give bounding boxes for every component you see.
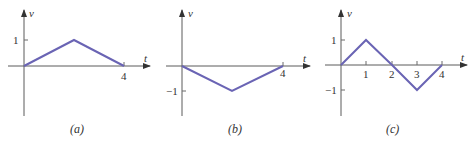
- t-axis-label: t: [461, 51, 465, 63]
- x-tick-label: 4: [280, 67, 286, 79]
- x-tick-label-2: 2: [389, 68, 395, 80]
- caption-b: (b): [228, 122, 242, 136]
- v-axis-label: v: [29, 7, 34, 19]
- figure: v t 1 4 (a) v t −1 4 (b) v t 1 −1 1 2 3 …: [0, 0, 476, 143]
- x-tick-label-3: 3: [414, 68, 420, 80]
- x-tick-label-4: 4: [439, 68, 445, 80]
- panel-b: v t −1 4 (b): [166, 7, 310, 136]
- panel-a: v t 1 4 (a): [8, 7, 150, 136]
- x-tick-label: 4: [121, 70, 127, 82]
- t-axis-label: t: [144, 52, 148, 64]
- y-tick-label: 1: [13, 34, 19, 46]
- waveform-line: [182, 66, 283, 91]
- y-tick-label-m1: −1: [325, 84, 337, 96]
- v-axis-label: v: [188, 7, 193, 19]
- x-tick-label-1: 1: [363, 68, 369, 80]
- y-tick-label: −1: [166, 85, 178, 97]
- caption-a: (a): [70, 122, 84, 136]
- v-axis-label: v: [347, 7, 352, 19]
- t-axis-label: t: [303, 52, 307, 64]
- y-tick-label-1: 1: [331, 34, 337, 46]
- waveform-line: [24, 40, 124, 66]
- panel-c: v t 1 −1 1 2 3 4 (c): [325, 7, 467, 136]
- caption-c: (c): [386, 122, 399, 136]
